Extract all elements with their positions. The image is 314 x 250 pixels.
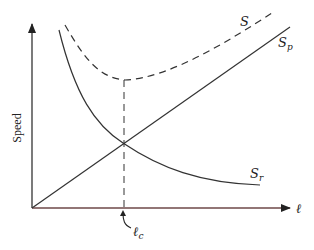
speed-diagram: Speed ℓ S Sp Sr ℓc	[0, 0, 314, 250]
sp-label: Sp	[278, 35, 293, 52]
s-label: S	[240, 14, 249, 29]
x-axis-label: ℓ	[296, 201, 302, 216]
sr-curve	[59, 30, 260, 185]
sr-label: Sr	[250, 166, 264, 183]
critical-length-label: ℓc	[133, 224, 143, 241]
arrowhead-icon	[120, 210, 126, 216]
y-axis-label: Speed	[10, 113, 24, 142]
